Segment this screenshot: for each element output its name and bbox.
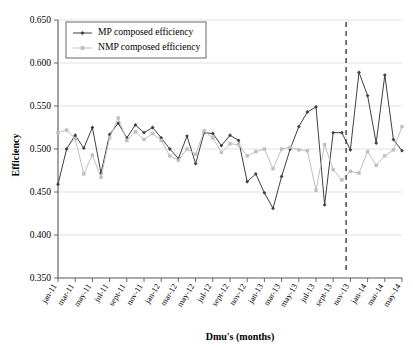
data-point-marker (271, 167, 274, 170)
data-point-marker (185, 134, 189, 138)
data-point-marker (108, 136, 111, 139)
y-tick-label: 0.400 (30, 230, 52, 240)
chart-canvas: 0.3500.4000.4500.5000.5500.6000.650 jan-… (0, 0, 413, 348)
series-mp (56, 71, 404, 211)
data-point-marker (271, 206, 275, 210)
data-point-marker (254, 150, 257, 153)
x-axis-group: jan-11mar-11may-11jul-11sept-11nov-11jan… (39, 278, 403, 309)
data-point-marker (65, 128, 68, 131)
y-axis-group: 0.3500.4000.4500.5000.5500.6000.650 (30, 15, 58, 283)
x-tick-label: nov-12 (228, 282, 248, 307)
data-point-marker (392, 148, 395, 151)
data-point-marker (142, 138, 145, 141)
series-group (56, 71, 404, 211)
x-tick-label: nov-13 (331, 282, 351, 307)
legend-marker (81, 46, 85, 50)
data-point-marker (340, 131, 344, 135)
data-point-marker (56, 182, 60, 186)
series-nmp (56, 116, 403, 192)
efficiency-line-chart: 0.3500.4000.4500.5000.5500.6000.650 jan-… (0, 0, 413, 348)
data-point-marker (263, 147, 266, 150)
data-point-marker (383, 154, 386, 157)
data-point-marker (280, 147, 283, 150)
data-point-marker (357, 171, 360, 174)
data-point-marker (74, 137, 77, 140)
data-point-marker (211, 136, 214, 139)
data-point-marker (349, 148, 353, 152)
legend-label: NMP composed efficiency (98, 41, 201, 52)
x-tick-label: nov-11 (125, 282, 145, 306)
data-point-marker (168, 154, 171, 157)
data-point-marker (194, 152, 197, 155)
legend-group: MP composed efficiencyNMP composed effic… (66, 22, 206, 58)
x-tick-label: sept-11 (107, 282, 127, 307)
data-point-marker (280, 175, 284, 179)
data-point-marker (323, 203, 327, 207)
data-point-marker (366, 94, 370, 98)
x-tick-label: may-11 (72, 282, 93, 308)
data-point-marker (91, 153, 94, 156)
data-point-marker (289, 146, 292, 149)
data-point-marker (323, 143, 326, 146)
legend-label: MP composed efficiency (98, 26, 194, 37)
y-tick-label: 0.450 (30, 187, 52, 197)
y-tick-label: 0.350 (30, 273, 52, 283)
series-polyline (58, 72, 402, 208)
y-tick-label: 0.550 (30, 101, 52, 111)
data-point-marker (117, 116, 120, 119)
data-point-marker (56, 131, 59, 134)
data-point-marker (91, 126, 95, 130)
x-tick-label: may-14 (382, 282, 404, 309)
data-point-marker (375, 164, 378, 167)
data-point-marker (151, 132, 154, 135)
data-point-marker (177, 158, 180, 161)
data-point-marker (332, 168, 335, 171)
data-point-marker (306, 149, 309, 152)
x-tick-label: may-12 (175, 282, 196, 308)
data-point-marker (160, 139, 163, 142)
data-point-marker (340, 178, 343, 181)
data-point-marker (82, 172, 85, 175)
y-tick-label: 0.500 (30, 144, 52, 154)
series-polyline (58, 118, 402, 190)
data-point-marker (263, 191, 267, 195)
y-tick-label: 0.650 (30, 15, 52, 25)
data-point-marker (400, 125, 403, 128)
y-tick-label: 0.600 (30, 58, 52, 68)
data-point-marker (366, 150, 369, 153)
data-point-marker (203, 129, 206, 132)
data-point-marker (194, 162, 198, 166)
y-axis-title: Efficiency (10, 134, 21, 177)
data-point-marker (237, 143, 240, 146)
data-point-marker (349, 170, 352, 173)
data-point-marker (220, 151, 223, 154)
data-point-marker (297, 148, 300, 151)
data-point-marker (314, 189, 317, 192)
data-point-marker (228, 142, 231, 145)
data-point-marker (357, 71, 361, 75)
data-point-marker (134, 130, 137, 133)
data-point-marker (185, 147, 188, 150)
x-tick-label: may-13 (278, 282, 299, 308)
data-point-marker (99, 176, 102, 179)
x-tick-label: sept-12 (210, 282, 231, 307)
data-point-marker (125, 139, 128, 142)
x-axis-title: Dmu's (months) (206, 331, 275, 343)
data-point-marker (374, 141, 378, 145)
data-point-marker (331, 131, 335, 135)
x-tick-label: sept-13 (313, 282, 334, 307)
data-point-marker (383, 73, 387, 77)
data-point-marker (246, 154, 249, 157)
